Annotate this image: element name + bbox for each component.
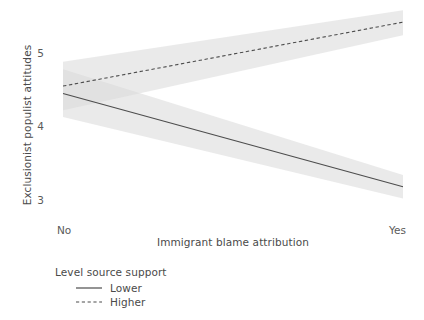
chart-figure: Exclusionist populist attitudes 5 4 3 No…	[0, 0, 424, 320]
legend-label-higher: Higher	[110, 296, 146, 308]
chart-legend: Level source support Lower Higher	[55, 266, 235, 309]
legend-key-dashed-line-icon	[75, 296, 103, 308]
legend-item-lower[interactable]: Lower	[75, 281, 235, 295]
legend-key-solid-line-icon	[75, 282, 103, 294]
legend-label-lower: Lower	[110, 282, 142, 294]
legend-item-higher[interactable]: Higher	[75, 295, 235, 309]
series-line-lower	[63, 93, 403, 186]
confidence-band-higher	[63, 10, 403, 110]
legend-title: Level source support	[55, 266, 235, 278]
x-axis-title: Immigrant blame attribution	[63, 236, 403, 248]
